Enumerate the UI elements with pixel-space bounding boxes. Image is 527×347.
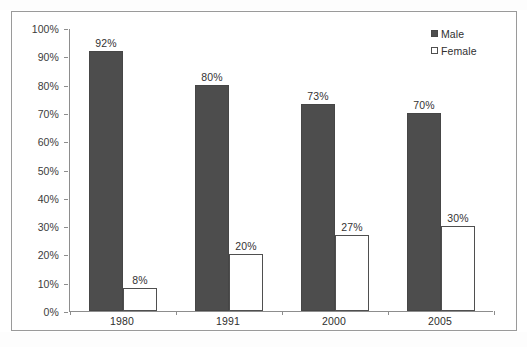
y-axis-tick-label: 90% [38,51,64,63]
y-axis-tick-label: 80% [38,80,64,92]
legend-item-female[interactable]: Female [431,43,511,58]
legend-swatch-icon [431,47,438,54]
y-axis-tick-label: 50% [38,165,64,177]
bar-value-label: 80% [201,71,222,83]
bar-value-label: 92% [95,37,116,49]
page-top-margin [0,0,527,10]
x-axis-category-label: 1991 [175,315,281,327]
legend-label: Female [441,45,477,57]
x-axis: 1980199120002005 [69,315,493,333]
y-axis-tick-mark [64,142,68,143]
x-axis-category-label: 1980 [69,315,175,327]
bar-value-label: 73% [307,90,328,102]
y-axis-tick-mark [64,114,68,115]
y-axis-tick: 70% [12,107,64,121]
y-axis-tick-mark [64,255,68,256]
y-axis-tick: 10% [12,277,64,291]
y-axis-tick-label: 60% [38,136,64,148]
y-axis-tick-mark [64,86,68,87]
y-axis-tick: 30% [12,220,64,234]
plot-area: 92%8%80%20%73%27%70%30% [69,29,493,312]
y-axis-tick: 60% [12,135,64,149]
bar-group: 70%30% [388,29,494,311]
y-axis-tick-label: 0% [44,306,64,318]
chart-frame: 100%90%80%70%60%50%40%30%20%10%0% 92%8%8… [11,11,517,331]
x-axis-tick-mark [494,311,495,315]
y-axis-tick-mark [64,57,68,58]
legend-label: Male [441,28,464,40]
bar-group: 73%27% [282,29,388,311]
legend-item-male[interactable]: Male [431,26,511,41]
bar-group: 80%20% [176,29,282,311]
page-bottom-margin [0,332,527,347]
bar-male-2005[interactable]: 70% [407,113,441,311]
y-axis-tick-mark [64,199,68,200]
y-axis-tick: 20% [12,248,64,262]
y-axis-tick: 100% [12,22,64,36]
y-axis-tick-mark [64,29,68,30]
bar-female-1980[interactable]: 8% [123,288,157,311]
bar-value-label: 20% [235,240,256,252]
bar-group: 92%8% [70,29,176,311]
y-axis-tick-mark [64,284,68,285]
y-axis-tick-label: 20% [38,249,64,261]
y-axis-tick-label: 30% [38,221,64,233]
y-axis-tick-mark [64,312,68,313]
y-axis-tick-label: 70% [38,108,64,120]
y-axis-tick: 40% [12,192,64,206]
y-axis-tick-label: 10% [38,278,64,290]
x-axis-category-label: 2005 [387,315,493,327]
x-axis-category-label: 2000 [281,315,387,327]
bar-female-2000[interactable]: 27% [335,235,369,311]
chart-legend: MaleFemale [431,26,511,60]
y-axis-tick: 0% [12,305,64,319]
y-axis-tick-label: 40% [38,193,64,205]
bar-value-label: 8% [132,274,147,286]
legend-swatch-icon [431,30,438,37]
y-axis-tick-mark [64,227,68,228]
bar-value-label: 30% [447,212,468,224]
bar-value-label: 27% [341,221,362,233]
y-axis-tick-label: 100% [32,23,64,35]
bar-male-1991[interactable]: 80% [195,85,229,311]
y-axis-tick-mark [64,171,68,172]
y-axis-tick: 50% [12,164,64,178]
bar-male-1980[interactable]: 92% [89,51,123,311]
y-axis-tick: 80% [12,79,64,93]
bar-female-2005[interactable]: 30% [441,226,475,311]
bar-value-label: 70% [413,99,434,111]
y-axis-tick: 90% [12,50,64,64]
bar-male-2000[interactable]: 73% [301,104,335,311]
y-axis: 100%90%80%70%60%50%40%30%20%10%0% [12,29,64,312]
bar-female-1991[interactable]: 20% [229,254,263,311]
